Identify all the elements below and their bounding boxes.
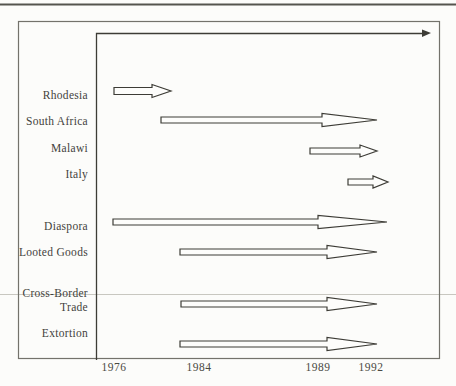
row-label: Malawi [51, 141, 88, 155]
timeline-arrow [310, 145, 377, 157]
time-axis [97, 34, 424, 361]
row-label: Italy [65, 167, 88, 181]
tick-label: 1984 [187, 361, 212, 374]
row-label: Diaspora [44, 219, 88, 233]
timeline-arrow [180, 338, 377, 351]
row-label: Rhodesia [43, 88, 88, 102]
row-label: Trade [60, 300, 88, 314]
tick-label: 1992 [359, 361, 384, 374]
timeline-arrow [348, 176, 388, 188]
time-axis-arrowhead [422, 30, 431, 38]
timeline-arrow [181, 298, 377, 311]
row-label: Cross-Border [22, 286, 88, 300]
row-label: Extortion [42, 326, 88, 340]
timeline-arrow [161, 114, 377, 127]
tick-label: 1976 [102, 361, 127, 374]
timeline-arrow [114, 85, 171, 98]
row-label: Looted Goods [19, 245, 88, 259]
figure-page: RhodesiaSouth AfricaMalawiItalyDiasporaL… [0, 0, 456, 386]
timeline-arrow [113, 216, 387, 229]
row-label: South Africa [26, 114, 88, 128]
tick-label: 1989 [306, 361, 331, 374]
timeline-arrow [180, 246, 377, 259]
